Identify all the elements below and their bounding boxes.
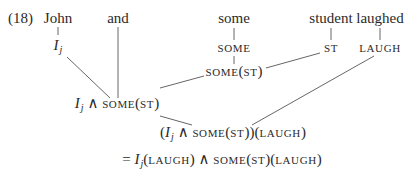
- node-SOME: SOME: [218, 43, 251, 54]
- edge-ij-to-conj: [67, 57, 110, 98]
- word-laughed: laughed: [356, 11, 403, 26]
- equals-sign: =: [122, 151, 134, 167]
- pred-some: SOME: [102, 98, 135, 110]
- equation-line: = Ij(LAUGH) ∧ SOME(ST)(LAUGH): [122, 152, 322, 169]
- ij-base: I: [75, 95, 80, 111]
- arg-laugh: LAUGH: [259, 127, 301, 139]
- edge-somest-to-conj: [160, 76, 204, 88]
- edge-ST-to-somest: [266, 53, 320, 68]
- arg-st: ST: [230, 127, 244, 139]
- pred-some: SOME: [205, 66, 238, 78]
- arg-st: ST: [251, 154, 265, 166]
- node-some-st: SOME(ST): [205, 64, 262, 79]
- wedge-operator: ∧: [84, 95, 102, 111]
- ij-base: I: [134, 151, 139, 167]
- word-and: and: [107, 11, 129, 26]
- arg-st: ST: [243, 66, 257, 78]
- arg-st: ST: [140, 98, 154, 110]
- paren: )): [244, 124, 254, 140]
- word-some: some: [218, 11, 250, 26]
- pred-some: SOME: [192, 127, 225, 139]
- arg-laugh: LAUGH: [275, 154, 317, 166]
- ij-base: I: [165, 124, 170, 140]
- node-ST: ST: [324, 43, 338, 54]
- ij-base: I: [54, 37, 59, 53]
- paren: ): [301, 124, 306, 140]
- pred-some: SOME: [213, 154, 246, 166]
- arg-laugh: LAUGH: [148, 154, 190, 166]
- ij-subscript: j: [60, 44, 63, 55]
- wedge-operator: ∧: [174, 124, 192, 140]
- paren: ): [258, 63, 263, 79]
- word-john: John: [44, 11, 72, 26]
- paren: ): [154, 95, 159, 111]
- node-result: (Ij ∧ SOME(ST))(LAUGH): [160, 125, 306, 142]
- node-ij: Ij: [54, 38, 63, 55]
- paren: ): [317, 151, 322, 167]
- wedge-operator: ∧: [195, 151, 213, 167]
- example-number: (18): [8, 11, 33, 26]
- semantic-derivation-tree: (18) John and some student laughed Ij SO…: [0, 0, 412, 178]
- node-conjunction: Ij ∧ SOME(ST): [75, 96, 159, 113]
- node-LAUGH: LAUGH: [359, 43, 401, 54]
- word-student: student: [309, 11, 352, 26]
